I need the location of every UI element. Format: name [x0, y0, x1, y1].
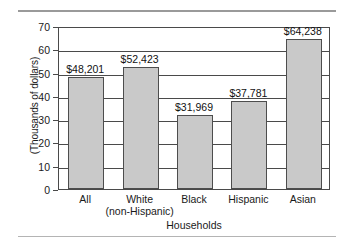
bar [286, 39, 322, 189]
bottom-divider-rule [18, 236, 336, 237]
bar [177, 115, 213, 189]
y-axis-tick-mark [53, 190, 58, 191]
chart-figure: (Thousands of dollars) 706050403020100 $… [0, 0, 353, 245]
bar [68, 77, 104, 189]
x-axis-title: Households [58, 219, 330, 231]
y-axis-tick-label: 50 [28, 69, 50, 79]
bar [231, 101, 267, 189]
bar-value-label: $37,781 [216, 88, 280, 99]
y-axis-tick-label: 30 [28, 115, 50, 125]
bar-value-label: $64,238 [271, 26, 335, 37]
y-axis-tick-label: 60 [28, 45, 50, 55]
y-axis-tick-label: 40 [28, 92, 50, 102]
x-tick-label-line: (non-Hispanic) [94, 205, 186, 217]
x-axis-tick-label: Asian [257, 193, 349, 205]
x-tick-label-line: Asian [290, 193, 316, 205]
x-tick-label-line: All [79, 193, 91, 205]
bar-value-label: $48,201 [53, 64, 117, 75]
bar-value-label: $52,423 [108, 54, 172, 65]
top-divider-rule [18, 10, 336, 12]
bar-value-label: $31,969 [162, 102, 226, 113]
y-axis-tick-label: 70 [28, 22, 50, 32]
y-axis-tick-label: 10 [28, 162, 50, 172]
y-axis-tick-label: 20 [28, 138, 50, 148]
bar [123, 67, 159, 189]
